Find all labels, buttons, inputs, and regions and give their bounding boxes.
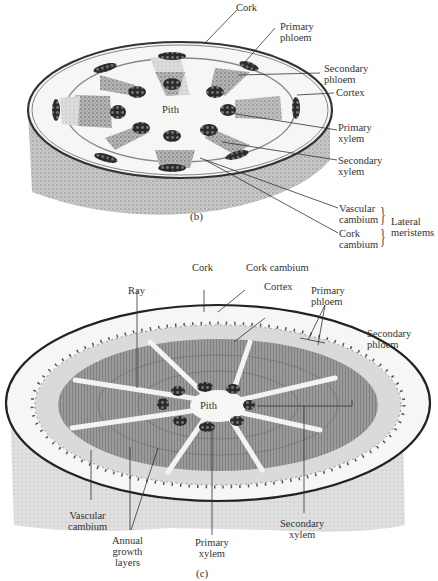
label-c-annual-growth-layers: Annual growth layers [112, 535, 143, 568]
label-c-secondary-xylem: Secondary xylem [280, 518, 324, 540]
label-c-vascular-cambium: Vascular cambium [68, 510, 107, 532]
panel-c-label: (c) [196, 567, 208, 579]
panel-c-woody-stem [6, 290, 430, 535]
label-b-primary-phloem: Primary phloem [280, 21, 314, 43]
stem-diagram-canvas [0, 0, 438, 581]
label-b-cortex: Cortex [336, 87, 365, 98]
brace-upper: } [380, 203, 386, 225]
label-c-cork-cambium: Cork cambium [246, 262, 309, 273]
label-b-cork: Cork [236, 2, 257, 13]
panel-b-label: (b) [190, 210, 203, 222]
brace-lower: } [380, 225, 386, 247]
label-c-ray: Ray [128, 285, 145, 296]
panel-b-young-stem [28, 10, 338, 233]
label-b-secondary-xylem: Secondary xylem [338, 155, 382, 177]
label-b-cork-cambium: Cork cambium [339, 228, 378, 250]
label-c-primary-phloem: Primary phloem [311, 285, 345, 307]
label-c-cork: Cork [192, 262, 213, 273]
label-c-pith: Pith [200, 400, 217, 411]
label-b-lateral-meristems: Lateral meristems [391, 216, 434, 238]
label-c-secondary-phloem: Secondary phloem [367, 328, 411, 350]
label-b-pith: Pith [162, 104, 179, 115]
label-b-secondary-phloem: Secondary phloem [324, 63, 368, 85]
label-b-primary-xylem: Primary xylem [338, 122, 372, 144]
label-c-primary-xylem: Primary xylem [195, 537, 229, 559]
label-c-cortex: Cortex [264, 281, 293, 292]
label-b-vascular-cambium: Vascular cambium [339, 203, 378, 225]
